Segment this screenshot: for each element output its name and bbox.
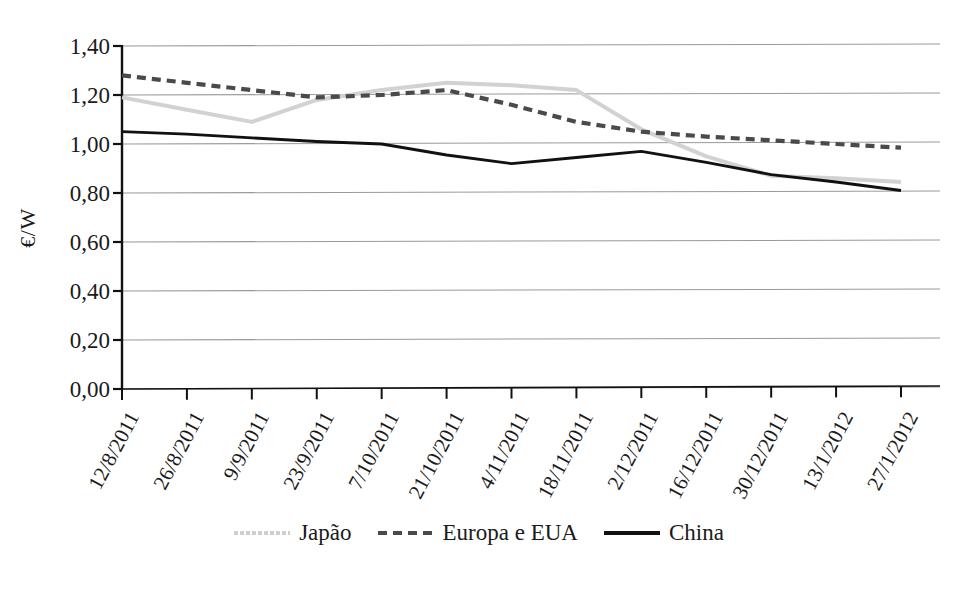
legend-label-china: China — [669, 520, 724, 546]
chart-legend: Japão Europa e EUA China — [0, 520, 958, 546]
data-series — [122, 75, 901, 190]
y-axis-tick-label: 1,00 — [36, 133, 110, 156]
y-axis-tick-label: 0,00 — [36, 378, 110, 401]
y-axis-tick-label: 0,40 — [36, 280, 110, 303]
legend-item-japao[interactable]: Japão — [234, 520, 351, 546]
y-axis-tick-label: 1,20 — [36, 84, 110, 107]
y-axis-tick-label: 1,40 — [36, 35, 110, 58]
chart-figure: €/W 0,000,200,400,600,801,001,201,40 12/… — [0, 0, 958, 592]
y-axis-ticks — [113, 46, 122, 389]
legend-swatch-europa-icon — [378, 531, 434, 535]
legend-label-japao: Japão — [299, 520, 351, 546]
legend-swatch-china-icon — [604, 531, 660, 535]
gridlines — [122, 44, 940, 389]
y-axis-tick-label: 0,60 — [36, 231, 110, 254]
legend-item-europa-eua[interactable]: Europa e EUA — [378, 520, 578, 546]
y-axis-tick-label: 0,20 — [36, 329, 110, 352]
y-axis-tick-label: 0,80 — [36, 182, 110, 205]
figure-bottom-margin — [0, 580, 958, 592]
legend-label-europa-eua: Europa e EUA — [443, 520, 578, 546]
legend-item-china[interactable]: China — [604, 520, 724, 546]
series-line-jap-o — [122, 83, 901, 182]
legend-swatch-japao-icon — [234, 531, 290, 535]
